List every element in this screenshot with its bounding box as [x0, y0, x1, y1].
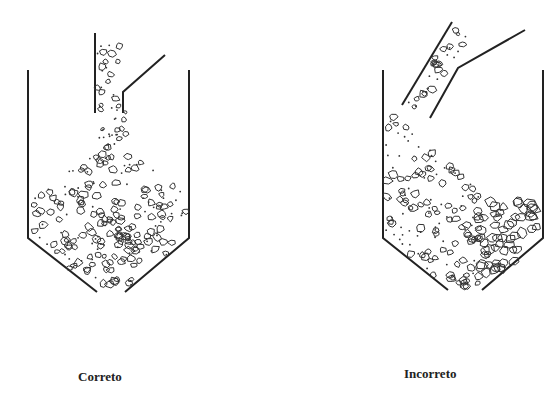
- label-incorrect: Incorreto: [404, 366, 456, 382]
- correct-aggregate-particles: [31, 43, 189, 288]
- hopper-diagram: [0, 0, 552, 403]
- incorrect-hopper: [383, 22, 543, 290]
- label-correct: Correto: [78, 369, 122, 385]
